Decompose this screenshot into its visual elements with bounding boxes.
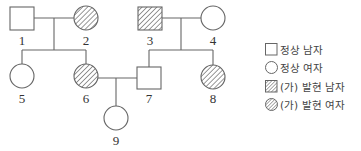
label-5: 5 xyxy=(19,91,26,106)
individual-3-male-affected xyxy=(138,7,162,30)
individual-5-female-normal xyxy=(10,64,34,88)
legend: 정상 남자 정상 여자 (가) 발현 남자 (가) 발현 여자 xyxy=(265,40,345,114)
legend-item-affected-male: (가) 발현 남자 xyxy=(265,77,345,96)
label-9: 9 xyxy=(113,133,120,148)
legend-item-normal-male: 정상 남자 xyxy=(265,40,345,59)
individual-8-female-affected xyxy=(201,65,225,89)
individual-4-female-normal xyxy=(201,6,225,30)
label-6: 6 xyxy=(83,91,90,106)
legend-label: (가) 발현 여자 xyxy=(280,97,345,112)
label-1: 1 xyxy=(19,33,26,48)
individual-2-female-affected xyxy=(74,6,98,30)
circle-empty-icon xyxy=(265,61,278,74)
label-7: 7 xyxy=(146,91,153,106)
circle-hatched-icon xyxy=(265,98,278,111)
square-hatched-icon xyxy=(265,80,278,93)
individual-1-male-normal xyxy=(10,7,34,30)
legend-item-affected-female: (가) 발현 여자 xyxy=(265,96,345,115)
legend-label: (가) 발현 남자 xyxy=(280,79,345,94)
legend-item-normal-female: 정상 여자 xyxy=(265,59,345,78)
label-8: 8 xyxy=(210,91,217,106)
label-3: 3 xyxy=(147,33,154,48)
individual-7-male-normal xyxy=(137,67,161,89)
individual-6-female-affected xyxy=(74,64,98,88)
legend-label: 정상 남자 xyxy=(280,42,323,57)
individual-9-female-normal xyxy=(104,106,128,130)
legend-label: 정상 여자 xyxy=(280,60,323,75)
label-2: 2 xyxy=(83,33,90,48)
label-4: 4 xyxy=(210,33,217,48)
square-empty-icon xyxy=(265,43,278,56)
